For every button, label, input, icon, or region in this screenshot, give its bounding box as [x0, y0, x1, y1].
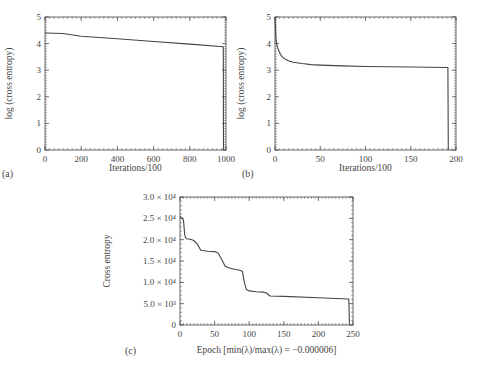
x-tick-label: 100: [242, 329, 256, 339]
x-tick-label: 0: [178, 329, 183, 339]
y-tick-label: 4: [267, 39, 272, 49]
chart-panel-c: 05010015020025005.0 × 10³1.0 × 10⁴1.5 × …: [102, 192, 360, 357]
x-tick-label: 800: [183, 154, 197, 164]
x-tick-label: 200: [312, 329, 326, 339]
data-line: [180, 216, 350, 325]
x-tick-label: 0: [273, 154, 278, 164]
y-tick-label: 4: [37, 39, 42, 49]
panel-label: (a): [2, 168, 13, 180]
x-axis-label: Iterations/100: [109, 163, 162, 173]
y-tick-label: 1.5 × 10⁴: [143, 256, 176, 266]
y-axis-label: log (cross entropy): [4, 48, 15, 120]
y-tick-label: 3: [267, 65, 272, 75]
major-ticks: [180, 197, 353, 325]
major-ticks: [275, 17, 456, 150]
y-axis-label: Cross entropy: [102, 234, 112, 287]
y-tick-label: 2: [37, 92, 42, 102]
plot-frame: [45, 17, 226, 150]
x-tick-label: 150: [404, 154, 418, 164]
data-line: [275, 17, 448, 150]
y-tick-label: 1: [267, 118, 272, 128]
x-axis-label: Epoch [min(λ)/max(λ) = −0.000006]: [197, 345, 337, 356]
y-tick-label: 5: [267, 12, 272, 22]
y-tick-label: 1.0 × 10⁴: [143, 277, 176, 287]
x-tick-label: 250: [346, 329, 360, 339]
y-tick-label: 3: [37, 65, 42, 75]
y-tick-label: 3.0 × 10⁴: [143, 192, 176, 202]
x-tick-label: 200: [74, 154, 88, 164]
y-tick-label: 5: [37, 12, 42, 22]
plot-frame: [275, 17, 456, 150]
y-tick-label: 2.5 × 10⁴: [143, 213, 176, 223]
x-tick-label: 50: [210, 329, 220, 339]
x-tick-label: 1000: [217, 154, 236, 164]
data-line: [45, 33, 224, 150]
minor-ticks: [45, 17, 226, 150]
x-tick-label: 200: [449, 154, 463, 164]
chart-panel-a: 02004006008001000012345Iterations/100log…: [2, 12, 236, 180]
minor-ticks: [180, 197, 353, 325]
minor-ticks: [275, 17, 456, 150]
x-axis-label: Iterations/100: [339, 163, 392, 173]
panel-label: (c): [125, 345, 136, 357]
y-tick-label: 1: [37, 118, 42, 128]
x-tick-label: 50: [316, 154, 326, 164]
y-axis-label: log (cross entropy): [236, 48, 247, 120]
y-tick-label: 0: [172, 320, 177, 330]
figure: 02004006008001000012345Iterations/100log…: [0, 0, 481, 369]
y-tick-label: 2: [267, 92, 272, 102]
y-tick-label: 5.0 × 10³: [143, 299, 176, 309]
x-tick-label: 150: [277, 329, 291, 339]
x-tick-label: 0: [43, 154, 48, 164]
y-tick-label: 0: [267, 145, 272, 155]
y-tick-label: 0: [37, 145, 42, 155]
panel-label: (b): [242, 168, 254, 180]
major-ticks: [45, 17, 226, 150]
chart-panel-b: 050100150200012345Iterations/100log (cro…: [236, 12, 463, 180]
y-tick-label: 2.0 × 10⁴: [143, 235, 176, 245]
plot-frame: [180, 197, 353, 325]
